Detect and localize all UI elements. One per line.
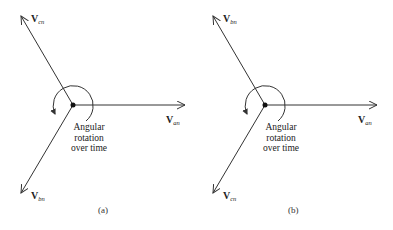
panel-b-diagram	[213, 16, 377, 193]
note-line: over time	[64, 143, 114, 154]
phasor-diagrams	[0, 0, 393, 230]
origin-dot	[263, 103, 268, 108]
label-right: Van	[166, 115, 180, 127]
label-upper-left: Vcn	[31, 14, 44, 26]
label-lower-left: Vcn	[223, 191, 236, 203]
label-right: Van	[358, 115, 372, 127]
phasor-upper-left-arrow	[213, 16, 265, 105]
note-line: over time	[256, 143, 306, 154]
note-line: rotation	[256, 133, 306, 144]
panel-b-caption: (b)	[288, 205, 299, 215]
label-lower-left: Vbn	[31, 191, 45, 203]
note-line: rotation	[64, 133, 114, 144]
panel-a-diagram	[21, 16, 185, 193]
label-upper-left: Vbn	[223, 14, 237, 26]
note-line: Angular	[64, 122, 114, 133]
origin-dot	[71, 103, 76, 108]
note-line: Angular	[256, 122, 306, 133]
rotation-note: Angular rotation over time	[256, 122, 306, 154]
panel-a-caption: (a)	[98, 205, 108, 215]
phasor-upper-left-arrow	[21, 16, 73, 105]
rotation-note: Angular rotation over time	[64, 122, 114, 154]
